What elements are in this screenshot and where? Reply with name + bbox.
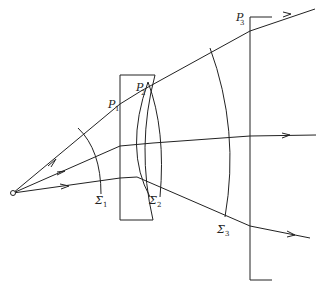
ray-middle [13, 133, 316, 193]
svg-text:Σ: Σ [216, 223, 225, 236]
svg-text:3: 3 [240, 19, 244, 27]
svg-text:1: 1 [103, 201, 107, 209]
svg-text:2: 2 [141, 89, 145, 97]
wavefront-sigma1 [78, 128, 101, 194]
point-source [11, 191, 16, 196]
label-p3: P 3 [235, 11, 244, 27]
label-sigma3: Σ 3 [216, 223, 229, 238]
label-sigma2: Σ 2 [148, 194, 161, 209]
label-p1: P 1 [107, 98, 119, 113]
ray-lower [13, 177, 310, 238]
svg-text:Σ: Σ [148, 194, 157, 207]
svg-text:2: 2 [157, 201, 161, 209]
svg-text:Σ: Σ [94, 194, 103, 207]
label-sigma1: Σ 1 [94, 194, 107, 209]
screen-plate [250, 17, 272, 280]
ray-upper [13, 9, 315, 193]
label-p2: P 2 [135, 81, 145, 97]
optics-diagram: P 1 P 2 P 3 Σ 1 Σ 2 Σ 3 [0, 0, 319, 287]
svg-text:1: 1 [115, 105, 119, 113]
svg-text:3: 3 [225, 230, 229, 238]
wavefront-sigma3 [210, 48, 230, 217]
